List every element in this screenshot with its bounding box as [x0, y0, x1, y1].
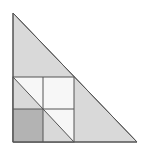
dark-cell: [13, 109, 43, 142]
geometry-diagram: [0, 0, 147, 150]
